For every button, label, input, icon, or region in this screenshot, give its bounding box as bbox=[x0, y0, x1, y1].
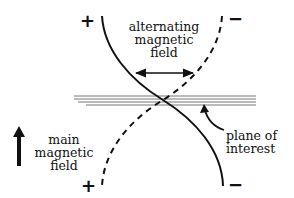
label-line: interest bbox=[226, 142, 290, 155]
sign-top-right: − bbox=[228, 10, 243, 28]
alternating-field-label: alternating magnetic field bbox=[122, 20, 206, 59]
main-field-arrowhead bbox=[13, 126, 25, 137]
main-field-label: main magnetic field bbox=[32, 133, 96, 172]
label-line: field bbox=[122, 46, 206, 59]
diagram-canvas: + − + − alternating magnetic field main … bbox=[0, 0, 294, 198]
sign-bottom-left: + bbox=[81, 177, 96, 195]
sign-top-left: + bbox=[80, 12, 95, 30]
sign-bottom-right: − bbox=[228, 176, 243, 194]
plane-pointer-arrow bbox=[205, 110, 224, 130]
label-line: field bbox=[32, 159, 96, 172]
plane-of-interest-label: plane of interest bbox=[226, 129, 290, 155]
